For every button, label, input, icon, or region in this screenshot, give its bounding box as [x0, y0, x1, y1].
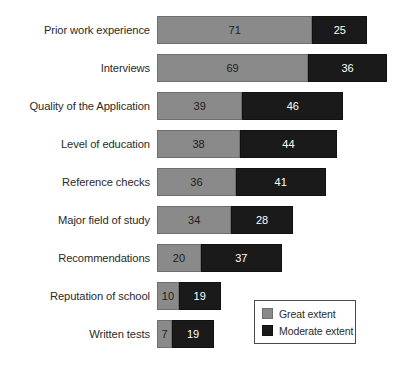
bar-row: Level of education3844	[0, 130, 399, 158]
category-label: Prior work experience	[0, 16, 150, 44]
bar-segment-moderate-extent: 41	[236, 168, 326, 196]
bar-track: 3844	[157, 130, 337, 158]
category-label: Recommendations	[0, 244, 150, 272]
bar-segment-moderate-extent: 37	[201, 244, 282, 272]
bar-row: Recommendations2037	[0, 244, 399, 272]
bar-segment-moderate-extent: 44	[240, 130, 336, 158]
bar-track: 1019	[157, 282, 221, 310]
bar-value-moderate-extent: 19	[180, 283, 220, 309]
bar-track: 2037	[157, 244, 282, 272]
bar-track: 6936	[157, 54, 387, 82]
bar-value-moderate-extent: 36	[309, 55, 386, 81]
category-label: Major field of study	[0, 206, 150, 234]
legend-swatch-great-extent	[262, 308, 273, 319]
legend-label-moderate-extent: Moderate extent	[279, 323, 353, 339]
bar-segment-moderate-extent: 46	[242, 92, 343, 120]
bar-segment-great-extent: 39	[157, 92, 242, 120]
bar-value-great-extent: 34	[158, 207, 230, 233]
bar-segment-moderate-extent: 25	[312, 16, 367, 44]
legend-item-moderate-extent: Moderate extent	[262, 323, 354, 339]
category-label: Reference checks	[0, 168, 150, 196]
bar-row: Quality of the Application3946	[0, 92, 399, 120]
bar-value-great-extent: 39	[158, 93, 241, 119]
bar-track: 3946	[157, 92, 343, 120]
bar-track: 3641	[157, 168, 326, 196]
bar-row: Major field of study3428	[0, 206, 399, 234]
category-label: Quality of the Application	[0, 92, 150, 120]
bar-segment-great-extent: 20	[157, 244, 201, 272]
bar-segment-great-extent: 71	[157, 16, 312, 44]
bar-value-moderate-extent: 37	[202, 245, 281, 271]
bar-track: 7125	[157, 16, 367, 44]
bar-value-great-extent: 36	[158, 169, 235, 195]
category-label: Written tests	[0, 320, 150, 348]
bar-value-great-extent: 7	[158, 321, 171, 347]
bar-value-great-extent: 38	[158, 131, 239, 157]
bar-segment-great-extent: 36	[157, 168, 236, 196]
legend-label-great-extent: Great extent	[279, 306, 336, 322]
bar-segment-moderate-extent: 19	[172, 320, 214, 348]
stacked-bar-chart: Prior work experience7125Interviews6936Q…	[0, 0, 399, 379]
bar-track: 3428	[157, 206, 293, 234]
bar-value-moderate-extent: 19	[173, 321, 213, 347]
bar-segment-great-extent: 34	[157, 206, 231, 234]
bar-segment-great-extent: 69	[157, 54, 308, 82]
bar-track: 719	[157, 320, 214, 348]
category-label: Level of education	[0, 130, 150, 158]
chart-legend: Great extent Moderate extent	[254, 300, 356, 344]
legend-item-great-extent: Great extent	[262, 306, 354, 322]
bar-value-moderate-extent: 25	[313, 17, 366, 43]
bar-row: Prior work experience7125	[0, 16, 399, 44]
bar-value-moderate-extent: 44	[241, 131, 335, 157]
bar-segment-moderate-extent: 36	[308, 54, 387, 82]
category-label: Reputation of school	[0, 282, 150, 310]
bar-value-great-extent: 71	[158, 17, 311, 43]
bar-value-great-extent: 20	[158, 245, 200, 271]
bar-value-great-extent: 10	[158, 283, 178, 309]
bar-value-moderate-extent: 41	[237, 169, 325, 195]
bar-row: Reference checks3641	[0, 168, 399, 196]
bar-value-moderate-extent: 28	[232, 207, 291, 233]
bar-value-great-extent: 69	[158, 55, 307, 81]
bar-segment-great-extent: 10	[157, 282, 179, 310]
category-label: Interviews	[0, 54, 150, 82]
bar-segment-great-extent: 38	[157, 130, 240, 158]
bar-segment-great-extent: 7	[157, 320, 172, 348]
bar-segment-moderate-extent: 28	[231, 206, 292, 234]
legend-swatch-moderate-extent	[262, 325, 273, 336]
bar-value-moderate-extent: 46	[243, 93, 342, 119]
bar-segment-moderate-extent: 19	[179, 282, 221, 310]
bar-row: Interviews6936	[0, 54, 399, 82]
